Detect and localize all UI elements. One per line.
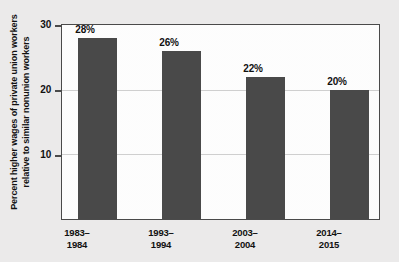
x-tick-label-1983-1984: 1983– 1984 [49,227,105,251]
bar-1993-1994[interactable] [162,51,201,219]
bar-value-label-2003-2004: 22% [225,63,281,74]
bar-chart-figure: Percent higher wages of private union wo… [0,0,399,262]
x-tick-label-line-2: 1994 [133,239,189,251]
x-tick-label-line-2: 2015 [301,239,357,251]
y-tick-label-20: 20 [11,84,51,95]
y-tick-label-10: 10 [11,149,51,160]
x-tick-label-line-1: 2003– [217,227,273,239]
bar-2003-2004[interactable] [246,77,285,219]
bar-value-label-2014-2015: 20% [309,76,365,87]
bar-1983-1984[interactable] [78,38,117,219]
x-tick-label-line-1: 1993– [133,227,189,239]
y-axis-title-line-2: relative to similar nonunion workers [20,14,32,210]
y-axis-title: Percent higher wages of private union wo… [0,0,40,224]
x-tick-label-line-1: 2014– [301,227,357,239]
bar-value-label-1993-1994: 26% [141,37,197,48]
x-tick-label-1993-1994: 1993– 1994 [133,227,189,251]
x-tick-label-line-1: 1983– [49,227,105,239]
y-tick-label-30: 30 [11,19,51,30]
x-tick-label-line-2: 2004 [217,239,273,251]
x-tick-label-2014-2015: 2014– 2015 [301,227,357,251]
x-tick-label-2003-2004: 2003– 2004 [217,227,273,251]
bar-2014-2015[interactable] [330,90,369,219]
plot-area [61,24,380,220]
y-axis-title-line-1: Percent higher wages of private union wo… [9,14,21,210]
x-tick-label-line-2: 1984 [49,239,105,251]
bar-value-label-1983-1984: 28% [57,24,113,35]
